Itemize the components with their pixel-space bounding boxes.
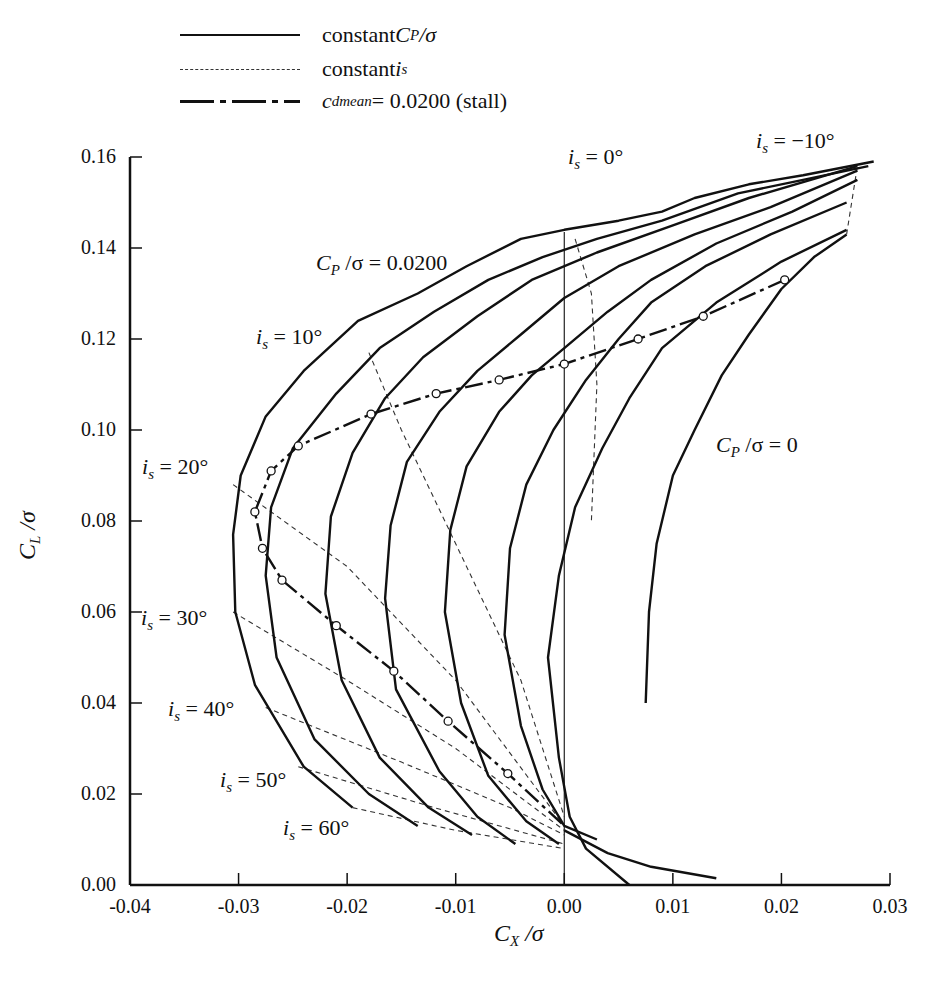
ylabel-var: C	[14, 544, 40, 560]
x-tick-label: -0.01	[421, 895, 491, 918]
y-tick-label: 0.16	[46, 145, 116, 168]
annotation-cp-0: CP /σ = 0	[716, 432, 798, 461]
y-axis-label: CL /σ	[14, 511, 44, 560]
ylabel-suffix: /σ	[14, 511, 40, 536]
x-tick-label: -0.02	[312, 895, 382, 918]
stall-point-marker	[390, 667, 398, 675]
ann-text: = 50°	[232, 767, 286, 792]
x-tick-label: 0.00	[529, 895, 599, 918]
y-tick-label: 0.04	[46, 691, 116, 714]
x-tick-label: -0.03	[204, 895, 274, 918]
y-tick-label: 0.00	[46, 873, 116, 896]
annotation-is-40: is = 40°	[168, 696, 234, 725]
ann-text: = −10°	[768, 128, 835, 153]
constant-is-line	[369, 353, 564, 817]
constant-cp-curve	[564, 830, 716, 878]
stall-point-marker	[444, 717, 452, 725]
annotation-is-60: is = 60°	[283, 815, 349, 844]
xlabel-suffix: /σ	[519, 920, 544, 946]
constant-cp-curve	[445, 180, 858, 844]
ann-text: = 30°	[153, 605, 207, 630]
x-tick-label: -0.04	[95, 895, 165, 918]
annotation-is-0: is = 0°	[568, 144, 623, 173]
stall-point-marker	[699, 312, 707, 320]
ann-var: C	[716, 432, 731, 457]
x-tick-label: 0.02	[746, 895, 816, 918]
stall-point-marker	[560, 360, 568, 368]
constant-is-line	[847, 166, 858, 234]
stall-point-marker	[258, 544, 266, 552]
y-tick-label: 0.14	[46, 236, 116, 259]
stall-point-marker	[781, 276, 789, 284]
xlabel-var: C	[494, 920, 510, 946]
ann-text: = 0°	[580, 144, 623, 169]
constant-is-line	[353, 808, 565, 849]
annotation-is-50: is = 50°	[220, 767, 286, 796]
y-tick-label: 0.10	[46, 418, 116, 441]
ann-var: C	[316, 250, 331, 275]
ann-sub: P	[331, 262, 340, 278]
stall-point-marker	[634, 335, 642, 343]
annotation-is-30: is = 30°	[141, 605, 207, 634]
ann-text: /σ = 0.0200	[340, 250, 447, 275]
ann-text: = 10°	[268, 324, 322, 349]
y-tick-label: 0.06	[46, 600, 116, 623]
ann-text: = 60°	[295, 815, 349, 840]
x-tick-label: 0.01	[638, 895, 708, 918]
x-axis-label: CX /σ	[494, 920, 544, 950]
annotation-is-10: is = 10°	[256, 324, 322, 353]
constant-cp-curve	[548, 230, 847, 885]
stall-point-marker	[278, 576, 286, 584]
stall-line	[251, 276, 789, 826]
constant-cp-curve	[505, 203, 847, 840]
stall-point-marker	[367, 410, 375, 418]
constant-is-line	[233, 612, 564, 830]
stall-curve	[255, 280, 785, 826]
ann-text: = 40°	[180, 696, 234, 721]
annotation-is-20: is = 20°	[142, 454, 208, 483]
stall-point-marker	[504, 770, 512, 778]
stall-point-marker	[251, 508, 259, 516]
stall-point-marker	[267, 467, 275, 475]
x-tick-label: 0.03	[855, 895, 925, 918]
annotation-cp-0200: CP /σ = 0.0200	[316, 250, 447, 279]
stall-point-marker	[294, 442, 302, 450]
ann-text: /σ = 0	[740, 432, 798, 457]
stall-point-marker	[495, 376, 503, 384]
y-tick-label: 0.02	[46, 782, 116, 805]
y-tick-label: 0.12	[46, 327, 116, 350]
y-tick-label: 0.08	[46, 509, 116, 532]
stall-point-marker	[332, 622, 340, 630]
xlabel-sub: X	[510, 933, 519, 949]
ann-sub: P	[731, 444, 740, 460]
stall-point-marker	[432, 390, 440, 398]
annotation-is-neg10: is = −10°	[756, 128, 835, 157]
ann-text: = 20°	[154, 454, 208, 479]
ylabel-sub: L	[27, 536, 43, 544]
constant-cp-curve	[646, 234, 847, 703]
